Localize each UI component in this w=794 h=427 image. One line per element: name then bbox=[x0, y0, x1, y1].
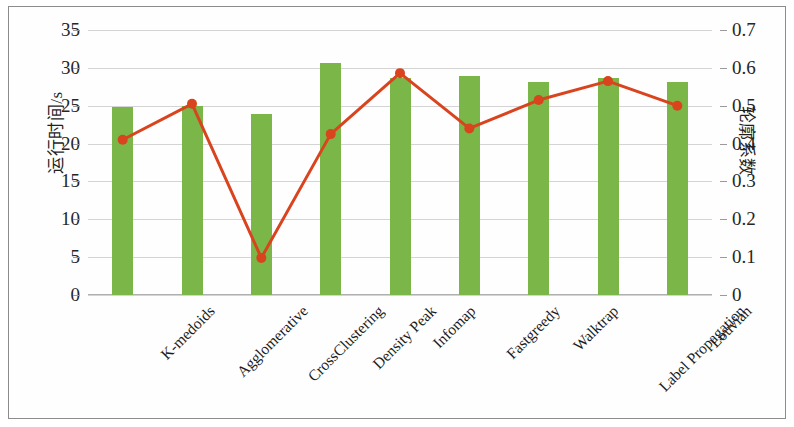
right-tick-mark bbox=[720, 295, 727, 296]
right-tick-mark bbox=[720, 30, 727, 31]
right-tick-label: 0.7 bbox=[732, 20, 776, 39]
left-tick-mark bbox=[73, 257, 80, 258]
line-series bbox=[88, 30, 712, 295]
data-point-marker bbox=[326, 129, 336, 139]
right-tick-mark bbox=[720, 144, 727, 145]
data-point-marker bbox=[603, 76, 613, 86]
right-tick-mark bbox=[720, 68, 727, 69]
right-tick-mark bbox=[720, 219, 727, 220]
data-point-marker bbox=[118, 135, 128, 145]
left-tick-mark bbox=[73, 106, 80, 107]
right-tick-mark bbox=[720, 257, 727, 258]
left-tick-mark bbox=[73, 219, 80, 220]
left-tick-mark bbox=[73, 68, 80, 69]
right-tick-label: 0.6 bbox=[732, 58, 776, 77]
right-axis-title: 轮廓系数 bbox=[736, 81, 761, 201]
gridline bbox=[88, 295, 712, 296]
line-path bbox=[123, 73, 678, 258]
right-tick-label: 0.1 bbox=[732, 247, 776, 266]
right-tick-label: 0.2 bbox=[732, 209, 776, 228]
right-tick-label: 0 bbox=[732, 285, 776, 304]
data-point-marker bbox=[395, 68, 405, 78]
plot-area bbox=[88, 30, 712, 295]
data-point-marker bbox=[534, 95, 544, 105]
right-tick-mark bbox=[720, 106, 727, 107]
chart-figure: 05101520253035 00.10.20.30.40.50.60.7 运行… bbox=[0, 0, 794, 427]
left-axis-title: 运行时间/s bbox=[42, 73, 67, 193]
left-tick-mark bbox=[73, 30, 80, 31]
data-point-marker bbox=[187, 99, 197, 109]
left-tick-mark bbox=[73, 144, 80, 145]
data-point-marker bbox=[256, 253, 266, 263]
left-tick-mark bbox=[73, 181, 80, 182]
data-point-marker bbox=[464, 123, 474, 133]
data-point-marker bbox=[672, 101, 682, 111]
left-tick-mark bbox=[73, 295, 80, 296]
right-tick-mark bbox=[720, 181, 727, 182]
